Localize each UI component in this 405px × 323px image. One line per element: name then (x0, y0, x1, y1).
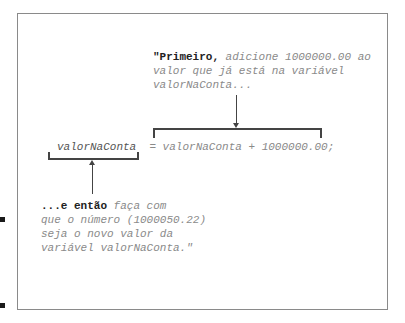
top-bracket-left-tick (153, 128, 155, 138)
bottom-annotation-line4: variável valorNaConta." (41, 242, 193, 254)
top-annotation-bold: "Primeiro, (153, 51, 219, 63)
code-statement: valorNaConta = valorNaConta + 1000000.00… (57, 140, 334, 154)
top-annotation-line2: valor que já está na variável (153, 65, 344, 77)
top-bracket (153, 128, 322, 130)
top-annotation-line3: valorNaConta... (153, 79, 252, 91)
top-annotation-line1: adicione 1000000.00 ao (219, 51, 371, 63)
bottom-annotation-line1: faça com (107, 200, 166, 212)
code-rhs: = valorNaConta + 1000000.00; (149, 141, 334, 153)
bottom-arrow-shaft (92, 164, 93, 194)
top-bracket-right-tick (320, 128, 322, 138)
bottom-bracket-right-tick (137, 152, 139, 160)
bottom-annotation-bold: ...e então (41, 200, 107, 212)
margin-mark (0, 303, 5, 308)
bottom-annotation: ...e então faça com que o número (100005… (41, 199, 206, 255)
top-annotation: "Primeiro, adicione 1000000.00 ao valor … (153, 50, 371, 92)
code-lhs: valorNaConta (57, 141, 136, 153)
bottom-annotation-line3: seja o novo valor da (41, 228, 173, 240)
margin-mark (0, 217, 5, 222)
bottom-annotation-line2: que o número (1000050.22) (41, 214, 206, 226)
top-arrow-shaft (236, 95, 237, 125)
bottom-bracket-left-tick (48, 152, 50, 160)
